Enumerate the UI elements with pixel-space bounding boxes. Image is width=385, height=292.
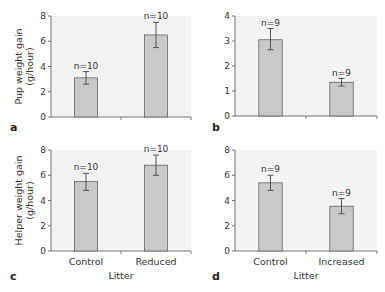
panel-a: 02468n=10n=10Pup weight gain(g/hour)a [10,11,191,134]
category-label: Control [69,256,103,267]
y-tick-label: 0 [40,246,46,256]
panel-d: 02468n=9Controln=9IncreasedLitterd [212,145,377,283]
sample-size-label: n=10 [74,162,99,172]
category-label: Increased [318,256,364,267]
y-tick-label: 4 [224,196,230,206]
category-label: Control [253,256,287,267]
y-tick-label: 3 [224,36,230,46]
panel-letter: a [10,121,17,134]
y-tick-label: 1 [224,86,230,96]
category-label: Reduced [135,256,176,267]
plot-area [235,16,377,116]
bar-control [259,183,282,251]
plot-area [51,150,191,251]
plot-area [51,16,191,117]
panel-letter: c [10,270,17,283]
sample-size-label: n=9 [332,188,351,198]
sample-size-label: n=10 [144,144,169,154]
y-tick-label: 2 [40,87,46,97]
x-axis-title: Litter [108,270,133,281]
figure: 02468n=10n=10Pup weight gain(g/hour)a 01… [0,0,385,292]
y-axis-title: Pup weight gain(g/hour) [13,28,35,104]
bar-reduced [144,165,167,251]
x-axis-title: Litter [293,270,318,281]
y-tick-label: 8 [224,145,230,155]
y-tick-label: 6 [40,170,46,180]
sample-size-label: n=10 [144,11,169,21]
y-tick-label: 0 [224,246,230,256]
y-tick-label: 4 [40,196,46,206]
panel-letter: b [212,121,220,134]
panel-c: 02468n=10Controln=10ReducedLitterHelper … [10,144,191,283]
bar-control [74,182,97,251]
y-tick-label: 0 [40,112,46,122]
y-tick-label: 8 [40,11,46,21]
bar-increased [330,82,353,116]
sample-size-label: n=9 [261,164,280,174]
sample-size-label: n=9 [332,68,351,78]
y-axis-title: Helper weight gain(g/hour) [13,156,35,246]
y-tick-label: 0 [224,111,230,121]
panel-b: 01234n=9n=9b [212,11,377,134]
y-tick-label: 2 [40,221,46,231]
sample-size-label: n=9 [261,18,280,28]
y-tick-label: 8 [40,145,46,155]
sample-size-label: n=10 [74,61,99,71]
y-tick-label: 2 [224,61,230,71]
figure-canvas: 02468n=10n=10Pup weight gain(g/hour)a 01… [0,0,385,292]
plot-area [235,150,377,251]
panel-letter: d [212,270,220,283]
y-tick-label: 2 [224,221,230,231]
y-tick-label: 4 [40,62,46,72]
y-tick-label: 4 [224,11,230,21]
bar-control [259,40,282,116]
y-tick-label: 6 [224,170,230,180]
y-tick-label: 6 [40,36,46,46]
